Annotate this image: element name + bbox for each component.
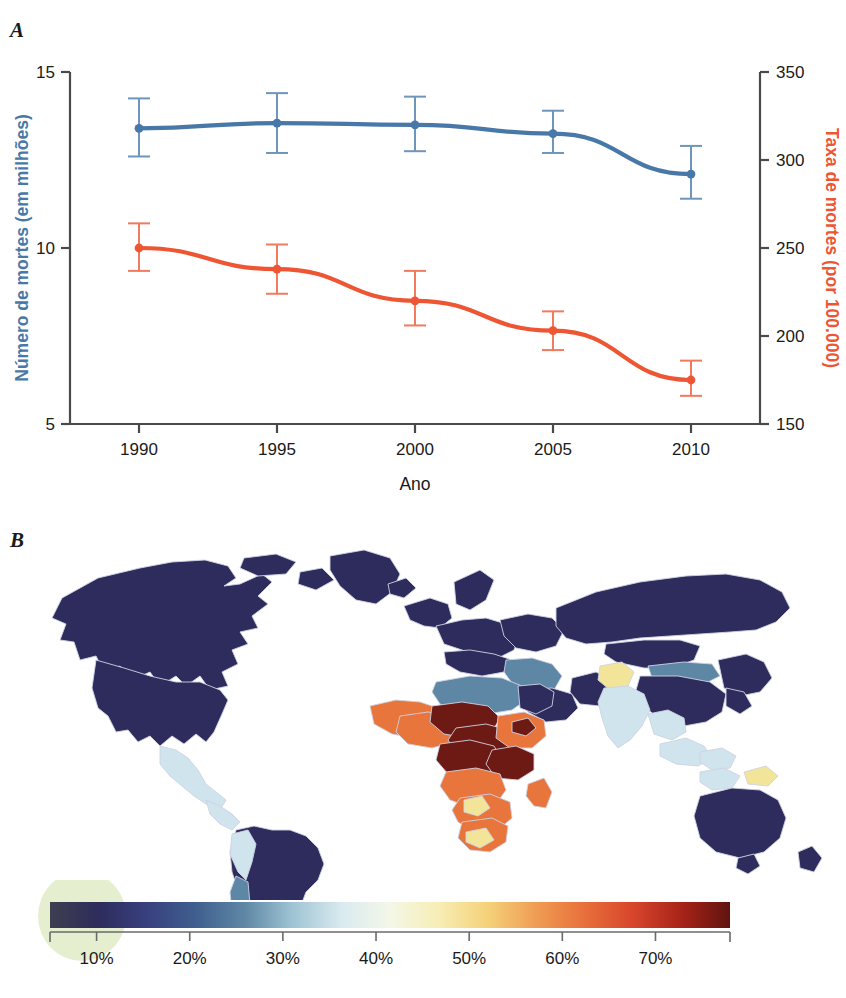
- line-chart-svg: 5101515020025030035019901995200020052010…: [0, 0, 846, 500]
- map-region-india: [598, 686, 650, 748]
- data-point-marker: [687, 376, 696, 385]
- map-region-baffin: [298, 568, 334, 590]
- data-point-marker: [273, 119, 282, 128]
- data-point-marker: [135, 124, 144, 133]
- y-axis-tick-label: 5: [46, 415, 55, 434]
- data-point-marker: [273, 265, 282, 274]
- y2-axis-tick-label: 300: [776, 151, 804, 170]
- map-colorbar-legend: 10%20%30%40%50%60%70%: [0, 880, 846, 998]
- y2-axis-tick-label: 250: [776, 239, 804, 258]
- data-point-marker: [687, 170, 696, 179]
- panel-a-line-chart: A 51015150200250300350199019952000200520…: [0, 0, 846, 500]
- colorbar-tick-label: 40%: [359, 949, 393, 968]
- map-region-new-zealand: [798, 846, 822, 872]
- map-region-greenland: [330, 550, 400, 604]
- map-region-arctic-islands: [240, 554, 296, 576]
- data-point-marker: [549, 326, 558, 335]
- map-region-mexico: [160, 746, 226, 810]
- y2-axis-tick-label: 150: [776, 415, 804, 434]
- colorbar-tick-label: 50%: [452, 949, 486, 968]
- y-axis-title: Número de mortes (em milhões): [12, 114, 32, 381]
- y-axis-tick-label: 15: [36, 63, 55, 82]
- x-axis-tick-label: 1990: [120, 440, 158, 459]
- map-region-indonesia-east: [700, 768, 740, 790]
- y2-axis-tick-label: 350: [776, 63, 804, 82]
- map-region-scandinavia: [454, 570, 494, 610]
- map-region-philippines: [700, 748, 736, 770]
- x-axis-tick-label: 2000: [396, 440, 434, 459]
- map-region-madagascar: [526, 778, 552, 808]
- colorbar-tick-label: 20%: [173, 949, 207, 968]
- y2-axis-tick-label: 200: [776, 327, 804, 346]
- y2-axis-title: Taxa de mortes (por 100.000): [822, 128, 842, 368]
- colorbar-tick-label: 60%: [545, 949, 579, 968]
- data-point-marker: [411, 120, 420, 129]
- y-axis-tick-label: 10: [36, 239, 55, 258]
- map-region-russia: [556, 574, 790, 644]
- colorbar-tick-label: 70%: [638, 949, 672, 968]
- chart-axes: 5101515020025030035019901995200020052010: [36, 63, 804, 459]
- colorbar-gradient-bar: [50, 902, 730, 928]
- x-axis-tick-label: 1995: [258, 440, 296, 459]
- series-deaths-count: [128, 93, 702, 199]
- x-axis-tick-label: 2005: [534, 440, 572, 459]
- data-point-marker: [135, 244, 144, 253]
- colorbar-tick-label: 10%: [80, 949, 114, 968]
- data-point-marker: [411, 296, 420, 305]
- map-region-papua-new-guinea: [744, 766, 778, 786]
- x-axis-tick-label: 2010: [672, 440, 710, 459]
- map-region-australia: [694, 788, 786, 858]
- colorbar-tick-label: 30%: [266, 949, 300, 968]
- map-region-uk-ireland: [404, 598, 452, 628]
- colorbar-svg: 10%20%30%40%50%60%70%: [0, 880, 846, 998]
- map-region-canada: [52, 560, 272, 690]
- series-death-rate: [128, 223, 702, 395]
- world-map-svg: [0, 500, 846, 900]
- data-point-marker: [549, 129, 558, 138]
- x-axis-title: Ano: [399, 474, 430, 494]
